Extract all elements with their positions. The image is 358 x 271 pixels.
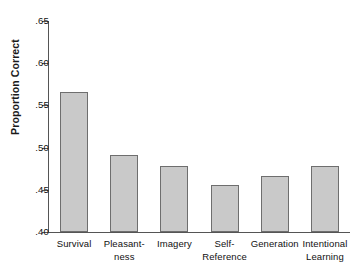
y-tick-label: .55 [23, 99, 49, 110]
y-tick-55: .55 [0, 105, 49, 106]
y-tick-50: .50 [0, 148, 49, 149]
bar [160, 166, 188, 232]
y-tick-45: .45 [0, 190, 49, 191]
x-axis-line [48, 232, 350, 233]
bar [60, 92, 88, 232]
bar [211, 185, 239, 232]
x-axis-label-line: ness [90, 251, 158, 264]
y-axis-title: Proportion Correct [8, 32, 22, 142]
y-tick-65: .65 [0, 21, 49, 22]
bar [311, 166, 339, 232]
y-tick-label: .65 [23, 15, 49, 26]
y-tick-label: .40 [23, 226, 49, 237]
x-axis-label: IntentionalLearning [291, 238, 358, 263]
bar [261, 176, 289, 232]
bar [110, 155, 138, 232]
y-tick-label: .45 [23, 184, 49, 195]
x-axis-label-line: Intentional [291, 238, 358, 251]
bar-chart: Proportion Correct .40.45.50.55.60.65 Su… [0, 0, 358, 271]
x-axis-label-line: Learning [291, 251, 358, 264]
y-tick-label: .60 [23, 57, 49, 68]
plot-area [49, 21, 350, 232]
y-tick-40: .40 [0, 232, 49, 233]
x-axis-label-line: Reference [191, 251, 259, 264]
y-tick-label: .50 [23, 142, 49, 153]
y-tick-60: .60 [0, 63, 49, 64]
